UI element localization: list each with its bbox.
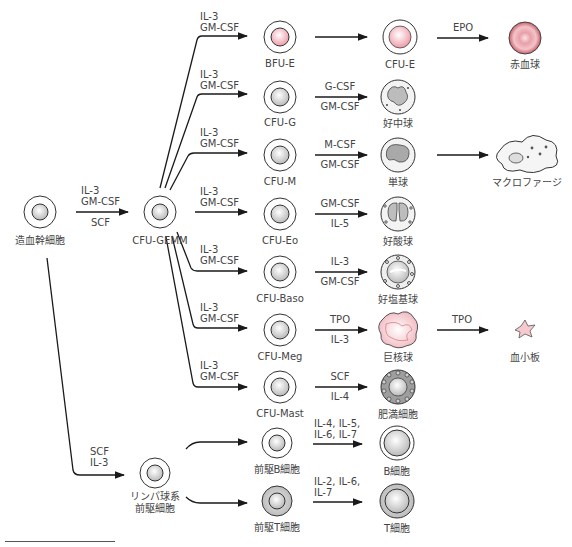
cfu-e-cell-icon <box>383 20 417 54</box>
edge-cfu-m-monocyte-label-2: GM-CSF <box>320 159 359 171</box>
cfu-e-label: CFU-E <box>385 59 415 71</box>
b-cell-icon <box>380 426 414 460</box>
basophil-cell-icon <box>381 255 415 289</box>
pre-t-cell-icon <box>262 486 292 516</box>
edge-gemm-cfu-baso-label-2: GM-CSF <box>200 255 239 267</box>
cfu-gemm-label: CFU-GEMM <box>132 235 187 247</box>
edge-pre-b-b-label-2: IL-6, IL-7 <box>314 429 357 441</box>
b-cell-label: B細胞 <box>384 466 411 478</box>
eosinophil-label: 好酸球 <box>383 236 413 248</box>
neutrophil-cell-icon <box>381 80 415 114</box>
edge-cfu-baso-basophil-label-2: GM-CSF <box>320 276 359 288</box>
cfu-baso-label: CFU-Baso <box>256 293 304 305</box>
edge-cfu-mast-mast-cell-label-2: IL-4 <box>331 391 349 403</box>
footnote-divider <box>5 541 115 542</box>
edge-hsc-lymphoid-label-2: IL-3 <box>90 457 108 469</box>
edge-cfu-g-neutrophil-label-1: G-CSF <box>325 81 355 93</box>
edge-gemm-bfu-e-label-2: GM-CSF <box>200 22 239 34</box>
pre-t-label: 前駆T細胞 <box>254 522 300 534</box>
edge-cfu-mast-mast-cell-label-1: SCF <box>330 371 349 383</box>
cfu-m-cell-icon <box>264 139 296 171</box>
cfu-gemm-cell-icon <box>144 196 176 228</box>
pre-b-label: 前駆B細胞 <box>254 464 301 476</box>
bfu-e-cell-icon <box>264 21 296 53</box>
edge-gemm-cfu-m-label-2: GM-CSF <box>200 138 239 150</box>
bfu-e-label: BFU-E <box>265 58 295 70</box>
megakaryocyte-label: 巨核球 <box>383 352 413 364</box>
edge-hsc-gemm-label-2: GM-CSF <box>81 196 120 208</box>
cfu-g-cell-icon <box>264 81 296 113</box>
edge-cfu-meg-megakaryocyte-label-2: IL-3 <box>331 334 349 346</box>
mast-cell-icon <box>381 370 415 404</box>
edge-cfu-m-monocyte-label-1: M-CSF <box>324 139 355 151</box>
edge-cfu-eo-eosinophil-label-2: IL-5 <box>331 218 349 230</box>
platelet-label: 血小板 <box>510 352 540 364</box>
edge-cfu-e-rbc-label: EPO <box>453 22 473 34</box>
edge-gemm-cfu-mast-label-2: GM-CSF <box>200 371 239 383</box>
cfu-g-label: CFU-G <box>264 117 296 129</box>
neutrophil-label: 好中球 <box>383 118 413 130</box>
cfu-baso-cell-icon <box>264 256 296 288</box>
hsc-cell-icon <box>24 196 56 228</box>
edge-hsc-gemm-label-3: SCF <box>91 217 110 229</box>
macrophage-label: マクロファージ <box>492 177 562 189</box>
edge-megakaryocyte-platelet-label: TPO <box>452 314 472 326</box>
platelet-icon <box>515 320 535 338</box>
megakaryocyte-cell-icon <box>379 312 418 348</box>
lymphoid-progenitor-label-2: 前駆細胞 <box>135 503 175 515</box>
hsc-label: 造血幹細胞 <box>15 235 65 247</box>
cfu-eo-cell-icon <box>264 198 296 230</box>
edge-gemm-cfu-meg-label-2: GM-CSF <box>200 313 239 325</box>
edge-cfu-meg-megakaryocyte-label-1: TPO <box>330 314 350 326</box>
edge-cfu-g-neutrophil-label-2: GM-CSF <box>320 101 359 113</box>
rbc-cell-icon <box>509 22 541 54</box>
basophil-label: 好塩基球 <box>378 294 418 306</box>
cfu-eo-label: CFU-Eo <box>262 235 298 247</box>
cfu-mast-label: CFU-Mast <box>256 408 304 420</box>
mast-cell-label: 肥満細胞 <box>378 409 418 421</box>
macrophage-cell-icon <box>496 135 557 172</box>
cfu-mast-cell-icon <box>264 371 296 403</box>
t-cell-label: T細胞 <box>384 523 410 535</box>
monocyte-cell-icon <box>381 138 415 172</box>
lymphoid-progenitor-label-1: リンパ球系 <box>130 491 180 503</box>
cfu-meg-cell-icon <box>264 314 296 346</box>
edge-cfu-baso-basophil-label-1: IL-3 <box>331 256 349 268</box>
pre-b-cell-icon <box>262 428 292 458</box>
rbc-label: 赤血球 <box>510 59 540 71</box>
t-cell-icon <box>380 484 414 518</box>
eosinophil-cell-icon <box>381 197 415 231</box>
cfu-m-label: CFU-M <box>264 176 296 188</box>
edge-gemm-cfu-eo-label-2: GM-CSF <box>200 197 239 209</box>
edge-gemm-cfu-g-label-2: GM-CSF <box>200 80 239 92</box>
cfu-meg-label: CFU-Meg <box>258 351 303 363</box>
monocyte-label: 単球 <box>388 177 408 189</box>
lymphoid-progenitor-cell-icon <box>140 458 170 488</box>
edge-cfu-eo-eosinophil-label-1: GM-CSF <box>320 198 359 210</box>
edge-pre-t-t-label-2: IL-7 <box>314 487 332 499</box>
